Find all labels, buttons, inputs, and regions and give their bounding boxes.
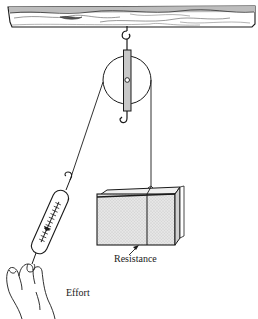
pulley-lower-hook <box>120 111 127 123</box>
hand <box>7 264 55 319</box>
pulley-frame <box>124 50 132 111</box>
spring-scale <box>29 172 72 264</box>
resistance-label: Resistance <box>114 254 157 264</box>
pulley-diagram <box>0 0 258 319</box>
block <box>97 186 184 245</box>
ceiling-hook <box>122 26 130 52</box>
effort-label: Effort <box>66 288 90 298</box>
ceiling-beam <box>8 6 255 27</box>
